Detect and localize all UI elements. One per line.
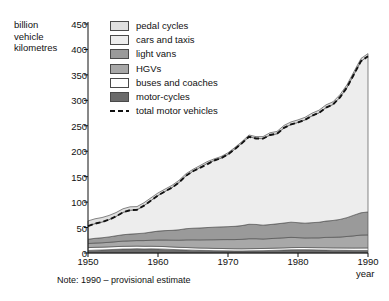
legend-item: light vans	[110, 47, 260, 61]
legend-color-swatch	[110, 21, 129, 31]
legend-item-label: motor-cycles	[136, 92, 190, 102]
x-tick-label: 1980	[287, 256, 308, 267]
legend-item-label: light vans	[136, 49, 176, 59]
legend-item-label: HGVs	[136, 64, 161, 74]
x-tick-label: 1960	[147, 256, 168, 267]
legend-item-label: pedal cycles	[136, 21, 188, 31]
legend-color-swatch	[110, 92, 129, 102]
chart-figure: billion vehicle kilometres 0501001502002…	[0, 0, 389, 301]
legend-item: buses and coaches	[110, 76, 260, 90]
x-tick-label: 1990	[357, 256, 378, 267]
legend-item: total motor vehicles	[110, 104, 260, 118]
legend-color-swatch	[110, 64, 129, 74]
legend-color-swatch	[110, 49, 129, 59]
chart-footnote: Note: 1990 – provisional estimate	[57, 275, 191, 285]
legend-item: pedal cycles	[110, 19, 260, 33]
legend-dash-swatch	[110, 106, 129, 116]
legend-item: HGVs	[110, 62, 260, 76]
x-axis-title: year	[356, 268, 374, 279]
legend-item-label: cars and taxis	[136, 35, 195, 45]
legend-color-swatch	[110, 78, 129, 88]
legend-item: cars and taxis	[110, 33, 260, 47]
legend-item: motor-cycles	[110, 90, 260, 104]
x-tick-label: 1970	[217, 256, 238, 267]
x-tick-label: 1950	[77, 256, 98, 267]
chart-legend: pedal cyclescars and taxislight vansHGVs…	[110, 19, 260, 118]
legend-item-label: total motor vehicles	[136, 106, 218, 116]
legend-color-swatch	[110, 35, 129, 45]
legend-item-label: buses and coaches	[136, 78, 218, 88]
